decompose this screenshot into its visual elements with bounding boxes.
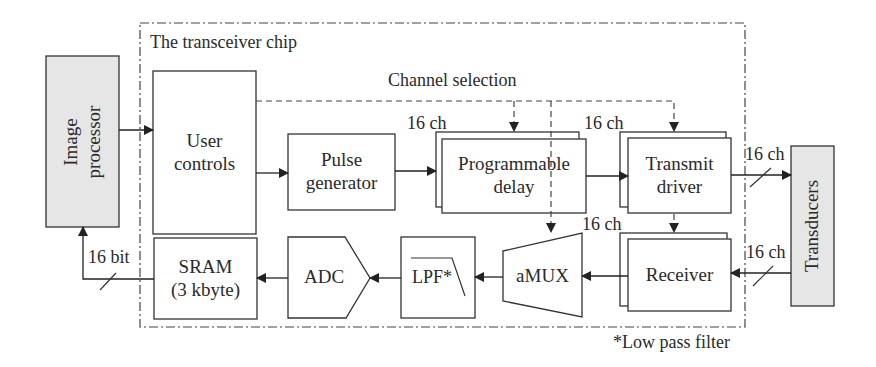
image-processor-line2: processor [83,106,106,179]
delay-in-bus-label: 16 ch [407,114,447,132]
pulse-generator-line2: generator [306,172,378,195]
image-processor-line1: Image [60,118,83,165]
driver-in-bus-label: 16 ch [584,114,624,132]
driver-out-bus-label: 16 ch [745,145,785,163]
programmable-delay-line1: Programmable [458,153,570,176]
user-controls-line2: controls [174,153,235,176]
lpf-label: LPF* [401,262,463,294]
transmit-driver-line2: driver [657,176,702,199]
pulse-generator-line1: Pulse [321,149,362,172]
transceiver-chip-label: The transceiver chip [150,33,297,51]
programmable-delay-line2: delay [493,176,534,199]
user-controls-label: User controls [153,71,256,234]
pulse-generator-label: Pulse generator [288,134,395,210]
sram-out-bus-label: 16 bit [88,248,130,266]
transducers-label: Transducers [800,146,824,306]
user-controls-line1: User [187,130,223,153]
image-processor-label: Image processor [63,57,103,228]
sram-line2: (3 kbyte) [171,279,240,302]
adc-label: ADC [288,237,360,318]
sram-line1: SRAM [179,256,233,279]
amux-in-bus-label: 16 ch [582,215,622,233]
transmit-driver-line1: Transmit [646,153,714,176]
channel-selection-label: Channel selection [388,71,516,89]
receiver-label: Receiver [628,239,731,311]
sram-label: SRAM (3 kbyte) [154,238,257,319]
amux-label: aMUX [503,258,582,294]
diagram-canvas [0,0,876,367]
footnote: *Low pass filter [613,333,730,351]
transmit-driver-label: Transmit driver [628,138,731,213]
receiver-in-bus-label: 16 ch [746,243,786,261]
programmable-delay-label: Programmable delay [442,139,586,213]
